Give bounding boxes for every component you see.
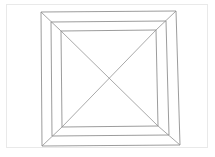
nested-squares-figure — [0, 0, 215, 157]
figure-canvas — [0, 0, 215, 157]
